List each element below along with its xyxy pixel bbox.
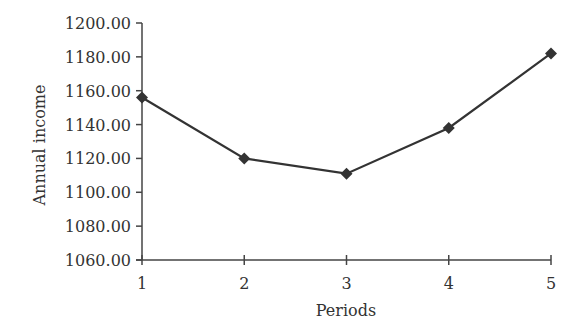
- y-tick-label: 1080.00: [65, 217, 131, 236]
- y-axis-label: Annual income: [30, 85, 49, 207]
- y-tick-label: 1160.00: [65, 82, 131, 101]
- diamond-marker-icon: [136, 91, 148, 103]
- y-axis: 1060.001080.001100.001120.001140.001160.…: [65, 14, 142, 270]
- x-axis-label: Periods: [316, 301, 376, 320]
- y-tick-label: 1200.00: [65, 14, 131, 33]
- x-axis: 12345: [136, 255, 556, 293]
- x-tick-label: 1: [137, 274, 147, 293]
- x-tick-label: 3: [341, 274, 351, 293]
- data-series: [136, 47, 557, 179]
- x-tick-label: 2: [239, 274, 249, 293]
- y-tick-label: 1120.00: [65, 149, 131, 168]
- x-tick-label: 4: [444, 274, 454, 293]
- diamond-marker-icon: [341, 168, 353, 180]
- y-tick-label: 1060.00: [65, 251, 131, 270]
- series-line: [142, 53, 551, 173]
- y-tick-label: 1140.00: [65, 116, 131, 135]
- chart-canvas: 1060.001080.001100.001120.001140.001160.…: [0, 0, 582, 335]
- diamond-marker-icon: [238, 152, 250, 164]
- y-tick-label: 1180.00: [65, 48, 131, 67]
- x-tick-label: 5: [546, 274, 556, 293]
- line-chart: 1060.001080.001100.001120.001140.001160.…: [0, 0, 582, 335]
- y-tick-label: 1100.00: [65, 183, 131, 202]
